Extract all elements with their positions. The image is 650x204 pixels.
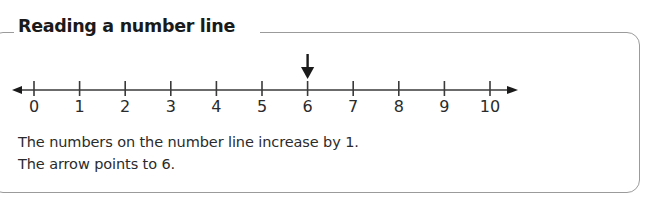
tick-label: 1: [75, 97, 85, 116]
tick-label: 2: [120, 97, 130, 116]
left-arrowhead-icon: [12, 86, 22, 94]
number-line-diagram: 0 1 2 3 4 5 6 7 8 9 10: [0, 46, 650, 116]
tick-label: 3: [166, 97, 176, 116]
tick-label: 9: [439, 97, 449, 116]
number-line-axis: [12, 86, 518, 94]
tick-label: 8: [394, 97, 404, 116]
tick-label: 4: [211, 97, 221, 116]
tick-label: 10: [480, 97, 500, 116]
tick-label: 7: [348, 97, 358, 116]
explanation-text: The numbers on the number line increase …: [18, 131, 359, 175]
tick-label: 0: [29, 97, 39, 116]
tick-label: 5: [257, 97, 267, 116]
explanation-line-1: The numbers on the number line increase …: [18, 131, 359, 153]
number-line-tick-labels: 0 1 2 3 4 5 6 7 8 9 10: [29, 97, 500, 116]
pointer-arrow-icon: [301, 54, 314, 79]
right-arrowhead-icon: [507, 86, 518, 94]
explanation-line-2: The arrow points to 6.: [18, 153, 359, 175]
number-line-ticks: [34, 81, 490, 96]
tick-label: 6: [303, 97, 313, 116]
panel-title: Reading a number line: [18, 15, 235, 37]
worksheet-panel: Reading a number line 0 1 2 3 4 5: [0, 0, 650, 204]
